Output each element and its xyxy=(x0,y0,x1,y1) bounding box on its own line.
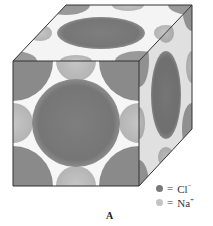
cl-ion-top-center xyxy=(57,17,145,49)
legend-row-na: = Na+ xyxy=(156,196,194,209)
figure-caption: A xyxy=(106,210,113,221)
na-ion-legend-icon xyxy=(156,199,163,206)
legend-label-cl: Cl− xyxy=(177,182,191,195)
cl-ion-front-center xyxy=(32,79,120,167)
legend-equals: = xyxy=(167,182,173,194)
legend-equals: = xyxy=(167,196,173,208)
legend-row-cl: = Cl− xyxy=(156,182,192,195)
legend-label-na: Na+ xyxy=(177,196,194,209)
cl-ion-legend-icon xyxy=(156,185,163,192)
